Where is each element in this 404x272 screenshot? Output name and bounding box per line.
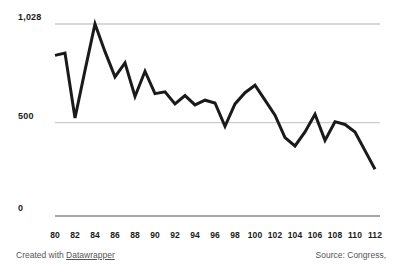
- y-axis-label-zero: 0: [18, 203, 23, 213]
- x-axis-tick-106: 106: [308, 230, 322, 240]
- x-axis-tick-112: 112: [368, 230, 382, 240]
- datawrapper-link[interactable]: Datawrapper: [66, 250, 115, 260]
- x-axis-tick-88: 88: [130, 230, 140, 240]
- chart-footer: Created with Datawrapper Source: Congres…: [0, 250, 404, 272]
- x-axis: 8082848688909294969810010210410610811011…: [0, 228, 404, 248]
- x-axis-tick-92: 92: [170, 230, 180, 240]
- y-axis-label-top: 1,028: [18, 12, 42, 22]
- line-chart-svg: [0, 0, 404, 228]
- x-axis-tick-90: 90: [150, 230, 160, 240]
- x-axis-tick-94: 94: [190, 230, 200, 240]
- x-axis-tick-102: 102: [268, 230, 282, 240]
- credit-prefix: Created with: [16, 250, 66, 260]
- x-axis-tick-98: 98: [230, 230, 240, 240]
- x-axis-tick-84: 84: [90, 230, 100, 240]
- x-axis-tick-82: 82: [70, 230, 80, 240]
- x-axis-tick-96: 96: [210, 230, 220, 240]
- plot-area: 1,028 500 0: [0, 0, 404, 228]
- x-axis-tick-80: 80: [50, 230, 60, 240]
- source-text: Source: Congress,: [316, 250, 386, 260]
- chart-container: 1,028 500 0 8082848688909294969810010210…: [0, 0, 404, 272]
- gridlines: [55, 24, 380, 216]
- credit-text: Created with Datawrapper: [16, 250, 115, 260]
- x-axis-tick-104: 104: [288, 230, 302, 240]
- y-axis-label-mid: 500: [18, 111, 34, 121]
- series-line-congress: [55, 24, 375, 169]
- x-axis-tick-110: 110: [348, 230, 362, 240]
- x-axis-tick-86: 86: [110, 230, 120, 240]
- x-axis-tick-108: 108: [328, 230, 342, 240]
- x-axis-tick-100: 100: [248, 230, 262, 240]
